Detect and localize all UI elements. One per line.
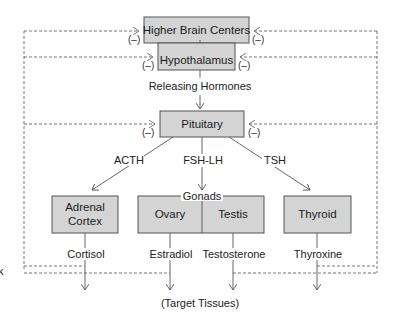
testis-label: Testis: [218, 208, 248, 220]
cropped-text-fragment: k: [0, 265, 4, 277]
cortisol-label: Cortisol: [67, 248, 104, 260]
inhibition-label: (–): [128, 34, 140, 45]
adrenal-cortex-label-line1: Adrenal: [65, 201, 105, 213]
thyroxine-label: Thyroxine: [294, 248, 342, 260]
acth-label: ACTH: [114, 154, 144, 166]
ovary-label: Ovary: [155, 208, 186, 220]
pituitary-label: Pituitary: [181, 118, 223, 130]
node-adrenal-cortex: Adrenal Cortex: [52, 196, 118, 233]
inhibition-label: (–): [252, 34, 264, 45]
fsh-lh-label: FSH-LH: [183, 154, 223, 166]
estradiol-label: Estradiol: [150, 248, 193, 260]
node-pituitary: Pituitary: [160, 111, 244, 137]
inhibition-label: (–): [248, 127, 260, 138]
hypothalamus-label: Hypothalamus: [160, 54, 234, 66]
adrenal-cortex-label-line2: Cortex: [68, 215, 102, 227]
thyroid-label: Thyroid: [298, 208, 336, 220]
node-hypothalamus: Hypothalamus: [158, 43, 235, 70]
inhibition-label: (–): [238, 60, 250, 71]
node-gonads: Gonads Ovary Testis: [138, 190, 264, 233]
testosterone-label: Testosterone: [203, 248, 266, 260]
inhibition-label: (–): [142, 127, 154, 138]
node-higher-brain-centers: Higher Brain Centers: [143, 17, 251, 43]
gonads-label: Gonads: [183, 190, 222, 202]
endocrine-feedback-diagram: (–) (–) (–) (–) (–) (–) Higher Brain Cen…: [0, 0, 397, 320]
target-tissues-label: (Target Tissues): [161, 297, 239, 309]
higher-brain-centers-label: Higher Brain Centers: [143, 24, 251, 36]
node-thyroid: Thyroid: [284, 196, 351, 233]
tsh-label: TSH: [264, 154, 286, 166]
inhibition-label: (–): [142, 60, 154, 71]
releasing-hormones-label: Releasing Hormones: [149, 80, 252, 92]
